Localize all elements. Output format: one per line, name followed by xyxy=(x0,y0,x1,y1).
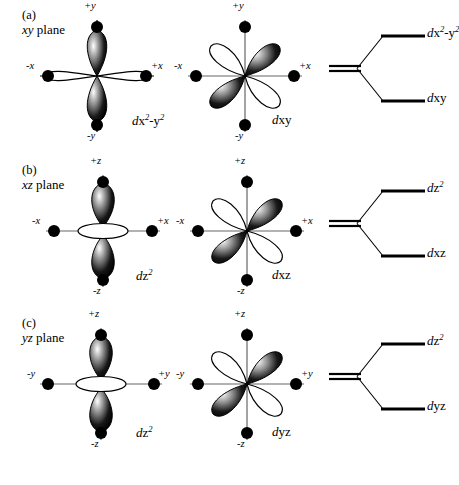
axis-label-horizontal-negative: -x xyxy=(26,60,34,71)
split-connector-upper xyxy=(357,191,383,224)
dxz-orbital: +z -z -x +x xyxy=(172,161,322,301)
ligand-circle xyxy=(42,70,54,82)
ligand-circle xyxy=(146,225,158,237)
lower-level-label: dxy xyxy=(427,90,447,106)
axis-label-vertical-negative: -y xyxy=(87,130,95,141)
ligand-circle xyxy=(241,329,253,341)
orbital-caption: dz2 xyxy=(136,267,153,284)
axis-label-vertical-negative: -z xyxy=(237,438,245,449)
axis-label-horizontal-positive: +y xyxy=(301,368,313,379)
axis-label-horizontal-positive: +x xyxy=(299,60,311,71)
axis-label-horizontal-negative: -x xyxy=(176,215,184,226)
ligand-circle xyxy=(241,176,253,188)
split-connector-lower xyxy=(357,224,383,257)
axis-label-vertical-positive: +z xyxy=(234,155,245,166)
ligand-circle xyxy=(192,225,204,237)
split-connector-upper xyxy=(357,36,383,69)
ligand-circle xyxy=(239,21,251,33)
upper-level-label: dz2 xyxy=(427,179,444,196)
axis-label-vertical-negative: -y xyxy=(235,130,243,141)
ligand-circle xyxy=(148,378,160,390)
ligand-circle xyxy=(95,329,107,341)
torus-ring xyxy=(78,224,128,239)
orbital-caption: dxy xyxy=(272,112,292,128)
orbital-caption: dyz xyxy=(272,424,291,440)
split-connector-lower xyxy=(357,377,383,410)
upper-level-label: dz2 xyxy=(427,332,444,349)
ligand-circle xyxy=(190,70,202,82)
lower-level-label: dxz xyxy=(427,245,446,261)
panel-b: (b) xz plane +z -z -x +x dz2 xyxy=(0,155,449,310)
orbital-caption: dz2 xyxy=(136,424,153,441)
torus-ring xyxy=(76,377,126,392)
axis-label-horizontal-positive: +y xyxy=(158,368,170,379)
split-connector-upper xyxy=(357,344,383,377)
axis-label-vertical-positive: +y xyxy=(84,0,96,11)
ligand-circle xyxy=(140,70,152,82)
panel-a: (a) xy plane +y -y -x +x dx2-y2 xyxy=(0,0,449,155)
ligand-circle xyxy=(288,70,300,82)
ligand-circle xyxy=(97,176,109,188)
ligand-circle xyxy=(48,225,60,237)
axis-label-vertical-negative: -z xyxy=(93,285,101,296)
dz2-orbital: +z -z -y +y xyxy=(26,314,176,454)
ligand-circle xyxy=(290,378,302,390)
axis-label-horizontal-positive: +x xyxy=(157,215,169,226)
orbital-caption: dx2-y2 xyxy=(132,112,164,129)
dz2-orbital: +z -z -x +x xyxy=(28,161,178,301)
axis-label-horizontal-positive: +x xyxy=(151,60,163,71)
orbital-caption: dxz xyxy=(272,267,291,283)
axis-label-horizontal-negative: -x xyxy=(32,215,40,226)
axis-label-vertical-negative: -z xyxy=(237,285,245,296)
axis-label-horizontal-negative: -x xyxy=(174,60,182,71)
ligand-circle xyxy=(290,225,302,237)
ligand-circle xyxy=(91,21,103,33)
axis-label-horizontal-negative: -y xyxy=(27,368,35,379)
panel-c: (c) yz plane +z -z -y +y dz2 xyxy=(0,308,449,463)
ligand-circle xyxy=(192,378,204,390)
dyz-orbital: +z -z -y +y xyxy=(172,314,322,454)
axis-label-vertical-positive: +z xyxy=(90,155,101,166)
axis-label-vertical-negative: -z xyxy=(91,438,99,449)
energy-level-diagram: dz2 dxz xyxy=(325,161,449,291)
energy-level-diagram: dx2-y2 dxy xyxy=(325,6,449,136)
upper-level-label: dx2-y2 xyxy=(427,24,459,41)
ligand-circle xyxy=(42,378,54,390)
lower-level-label: dyz xyxy=(427,398,446,414)
axis-label-vertical-positive: +y xyxy=(232,0,244,11)
energy-level-diagram: dz2 dyz xyxy=(325,314,449,444)
dxy-orbital: +y -y -x +x xyxy=(170,6,320,146)
axis-label-horizontal-negative: -y xyxy=(176,368,184,379)
axis-label-vertical-positive: +z xyxy=(234,308,245,319)
axis-label-vertical-positive: +z xyxy=(88,308,99,319)
split-connector-lower xyxy=(357,69,383,102)
axis-label-horizontal-positive: +x xyxy=(301,215,313,226)
